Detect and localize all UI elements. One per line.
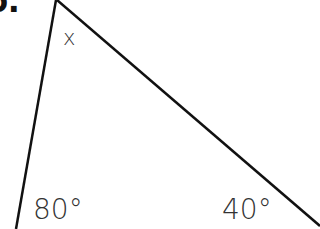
apex-angle-label: x [63,28,75,49]
right-side-line [57,0,320,226]
triangle-figure: 6. x 80° 40° [0,0,320,229]
right-angle-label: 40° [222,196,272,224]
left-angle-label: 80° [33,196,83,224]
